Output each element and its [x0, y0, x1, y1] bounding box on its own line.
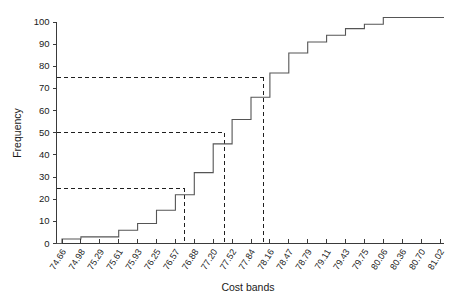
y-tick-label: 100: [34, 16, 50, 27]
chart-canvas: 0102030405060708090100 74.6674.9875.2975…: [0, 0, 449, 305]
y-axis-title: Frequency: [11, 107, 23, 157]
y-tick-label: 90: [39, 38, 50, 49]
y-tick-label: 80: [39, 60, 50, 71]
x-axis-ticks: [62, 239, 440, 244]
y-tick-label: 30: [39, 171, 50, 182]
x-axis-title: Cost bands: [221, 281, 274, 293]
y-tick-label: 50: [39, 127, 50, 138]
y-tick-label: 40: [39, 149, 50, 160]
y-tick-label: 70: [39, 82, 50, 93]
y-tick-label: 0: [44, 238, 49, 249]
y-tick-label: 20: [39, 193, 50, 204]
y-tick-label: 60: [39, 105, 50, 116]
y-tick-label: 10: [39, 215, 50, 226]
cumulative-frequency-chart: 0102030405060708090100 74.6674.9875.2975…: [0, 0, 449, 305]
